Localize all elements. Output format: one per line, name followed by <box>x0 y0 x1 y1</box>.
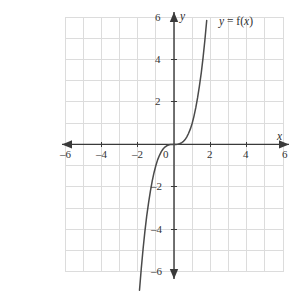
y-tick-label-pos2: 2 <box>155 96 161 107</box>
x-tick-label-pos4: 4 <box>243 149 249 160</box>
x-tick-label-pos2: 2 <box>207 149 213 160</box>
x-tick-label-zero: 0 <box>163 149 169 160</box>
y-tick-label-pos4: 4 <box>155 54 161 65</box>
y-tick-label-pos6: 6 <box>155 12 161 23</box>
graph-figure: –6 –4 –2 0 2 4 6 6 4 2 –2 –4 –6 y x y = … <box>0 0 301 293</box>
x-tick-label-neg2: –2 <box>132 149 143 160</box>
curve-label-close: ) <box>249 15 253 27</box>
coordinate-plane <box>0 0 301 293</box>
x-axis-label: x <box>277 131 282 143</box>
curve-label-equals: = f( <box>224 15 244 27</box>
x-tick-label-neg4: –4 <box>96 149 107 160</box>
axis-lines <box>62 12 289 279</box>
x-tick-label-pos6: 6 <box>282 149 288 160</box>
y-axis-label: y <box>180 11 185 23</box>
y-tick-label-neg2: –2 <box>151 181 162 192</box>
curve-equation-label: y = f(x) <box>219 16 253 28</box>
y-tick-label-neg4: –4 <box>151 224 162 235</box>
y-axis-down-arrowhead <box>170 269 178 279</box>
y-tick-label-neg6: –6 <box>151 266 162 277</box>
x-tick-label-neg6: –6 <box>60 149 71 160</box>
function-curve <box>140 21 207 291</box>
